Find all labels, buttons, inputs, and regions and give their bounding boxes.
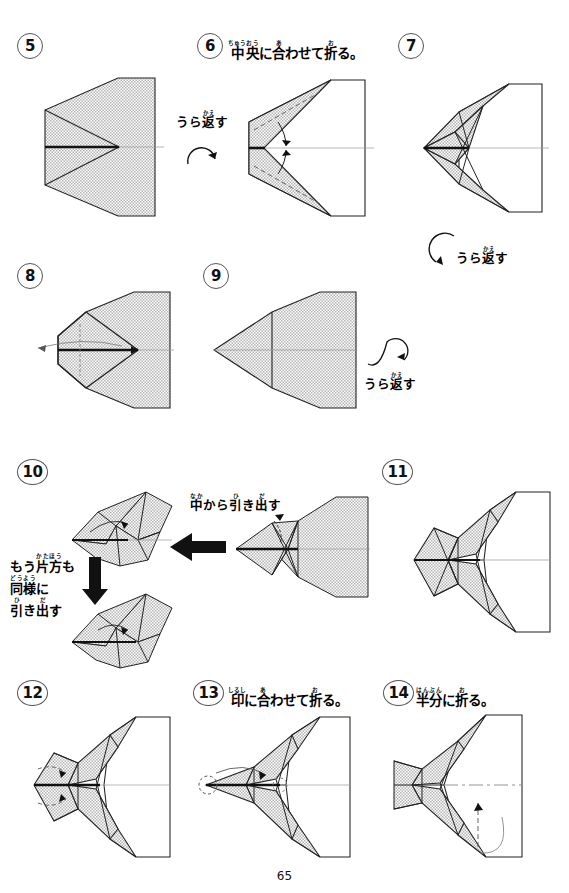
other-side-line-1: もう片方かたほうも xyxy=(10,553,75,575)
figure-step-13 xyxy=(190,705,365,865)
figure-step-14 xyxy=(382,705,562,870)
figure-step-7 xyxy=(399,72,559,224)
step-number-14: 14 xyxy=(383,680,414,706)
step-number-5: 5 xyxy=(17,33,43,59)
figure-step-9 xyxy=(200,284,375,416)
figure-step-6 xyxy=(234,72,399,224)
figure-step-10-result-bottom xyxy=(68,580,188,676)
step-number-7: 7 xyxy=(398,33,424,59)
other-side-line-2: 同様どうように xyxy=(10,575,75,597)
figure-step-11 xyxy=(392,480,564,640)
step-number-10: 10 xyxy=(17,459,48,485)
figure-step-8 xyxy=(14,284,189,416)
step-number-12: 12 xyxy=(17,680,48,706)
other-side-line-3: 引ひき出だす xyxy=(10,597,75,619)
figure-step-5 xyxy=(14,72,174,222)
origami-instruction-page: 5 6 中ちゅう央おうに合あわせて折おる。 7 xyxy=(0,0,569,893)
step-number-6: 6 xyxy=(197,33,223,59)
page-number: 65 xyxy=(0,869,569,883)
turn-over-label-2: うら返かえす xyxy=(456,246,508,267)
step-number-13: 13 xyxy=(193,680,224,706)
step-6-caption: 中ちゅう央おうに合あわせて折おる。 xyxy=(228,40,363,61)
turn-over-label-3: うら返かえす xyxy=(364,372,416,393)
annotation-other-side-same: もう片方かたほうも 同様どうように 引ひき出だす xyxy=(10,553,75,619)
figure-step-12 xyxy=(12,705,184,865)
figure-step-10-source xyxy=(228,493,378,603)
